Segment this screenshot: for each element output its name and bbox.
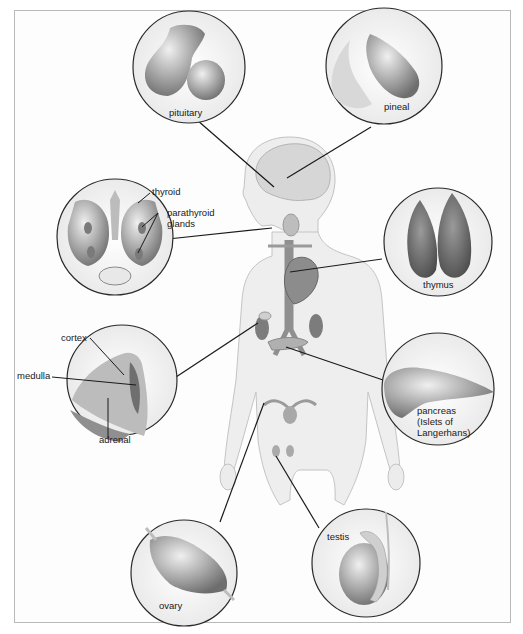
- label-pituitary: pituitary: [169, 107, 202, 118]
- label-ovary: ovary: [159, 600, 182, 611]
- label-langerhans: Langerhans): [417, 427, 470, 438]
- testis-inset: [312, 509, 420, 617]
- label-islets-of: (Islets of: [417, 416, 453, 427]
- label-thymus: thymus: [423, 279, 454, 290]
- ovary-inset: [131, 520, 237, 626]
- label-medulla: medulla: [17, 370, 50, 381]
- endocrine-diagram: [0, 0, 523, 634]
- label-parathyroid-glands: glands: [167, 218, 195, 229]
- label-thyroid: thyroid: [152, 186, 181, 197]
- label-cortex: cortex: [61, 332, 87, 343]
- label-adrenal: adrenal: [99, 434, 131, 445]
- label-pineal: pineal: [384, 101, 409, 112]
- label-pancreas: pancreas: [417, 405, 456, 416]
- label-testis: testis: [327, 531, 349, 542]
- label-parathyroid: parathyroid: [167, 207, 215, 218]
- human-body: [220, 137, 404, 505]
